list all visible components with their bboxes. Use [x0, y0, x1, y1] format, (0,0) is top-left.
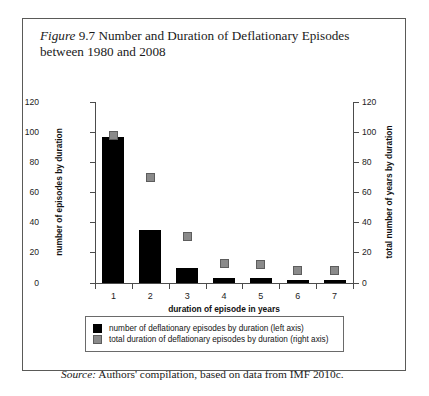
right-axis-tick [354, 132, 359, 133]
right-axis-tick [354, 222, 359, 223]
marker-1 [109, 131, 118, 140]
marker-5 [256, 260, 265, 269]
right-axis-tick [354, 283, 359, 284]
bar-7 [324, 280, 346, 283]
x-axis-tick [242, 284, 243, 289]
figure-frame: Figure 9.7 Number and Duration of Deflat… [22, 18, 406, 371]
x-axis-category-label: 5 [246, 291, 276, 301]
source-note: Source: Authors' compilation, based on d… [61, 368, 344, 380]
right-axis-title: total number of years by duration [384, 112, 394, 272]
bar-5 [250, 278, 272, 283]
legend-item-1: total duration of deflationary episodes … [93, 335, 337, 344]
right-axis-line [353, 102, 354, 284]
chart-legend: number of deflationary episodes by durat… [85, 316, 344, 352]
right-axis-tick-label: 20 [362, 248, 372, 257]
right-axis-tick-label: 80 [362, 158, 372, 167]
x-axis-line [95, 283, 354, 284]
bar-6 [287, 280, 309, 283]
right-axis-tick [354, 192, 359, 193]
x-axis-tick [95, 284, 96, 289]
left-axis-tick-label: 0 [34, 279, 39, 288]
right-axis-tick-label: 60 [362, 188, 372, 197]
x-axis-tick [279, 284, 280, 289]
x-axis-category-label: 7 [320, 291, 350, 301]
marker-4 [220, 259, 229, 268]
figure-label: Figure [40, 28, 75, 43]
left-axis-tick-label: 120 [25, 98, 39, 107]
x-axis-category-label: 6 [283, 291, 313, 301]
marker-6 [293, 266, 302, 275]
bar-3 [176, 268, 198, 283]
legend-swatch-black [93, 324, 102, 333]
right-axis-tick [354, 252, 359, 253]
bar-4 [213, 278, 235, 283]
marker-3 [183, 232, 192, 241]
right-axis-tick-label: 0 [362, 279, 367, 288]
x-axis-tick [169, 284, 170, 289]
legend-swatch-gray [93, 335, 102, 344]
x-axis-tick [316, 284, 317, 289]
marker-7 [330, 266, 339, 275]
x-axis-category-label: 2 [135, 291, 165, 301]
figure-caption: Figure 9.7 Number and Duration of Deflat… [40, 28, 385, 59]
bar-2 [139, 230, 161, 283]
legend-label: total duration of deflationary episodes … [109, 335, 328, 344]
right-axis-tick-label: 100 [362, 128, 376, 137]
left-axis-tick-label: 40 [29, 218, 39, 227]
x-axis-tick [206, 284, 207, 289]
chart-plot: 020406080100120 020406080100120 1234567 … [23, 67, 405, 299]
source-text: Authors' compilation, based on data from… [98, 368, 343, 380]
x-axis-category-label: 1 [98, 291, 128, 301]
left-axis-tick-label: 80 [29, 158, 39, 167]
right-axis-tick-label: 120 [362, 98, 376, 107]
x-axis-tick [353, 284, 354, 289]
legend-label: number of deflationary episodes by durat… [109, 324, 304, 333]
x-axis-tick [132, 284, 133, 289]
right-axis-tick [354, 162, 359, 163]
plot-area [95, 102, 353, 283]
source-label: Source: [61, 368, 96, 380]
x-axis-title: duration of episode in years [95, 304, 353, 314]
bar-1 [102, 137, 124, 283]
legend-item-0: number of deflationary episodes by durat… [93, 324, 337, 333]
left-axis-tick-label: 100 [25, 128, 39, 137]
x-axis-category-label: 4 [209, 291, 239, 301]
left-axis-tick-label: 60 [29, 188, 39, 197]
x-axis-category-label: 3 [172, 291, 202, 301]
marker-2 [146, 173, 155, 182]
right-axis-tick-label: 40 [362, 218, 372, 227]
right-axis-tick [354, 102, 359, 103]
figure-number: 9.7 [79, 28, 95, 43]
left-axis-tick-label: 20 [29, 248, 39, 257]
left-axis-title: number of episodes by duration [54, 112, 64, 272]
